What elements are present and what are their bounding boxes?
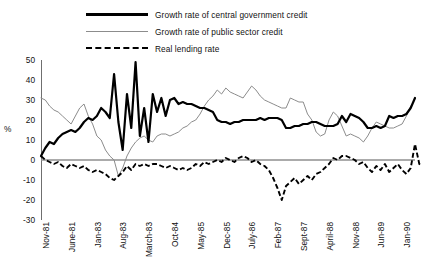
y-axis-tick-label: 50 — [11, 55, 35, 65]
legend-label: Growth rate of public sector credit — [155, 27, 283, 37]
x-axis-tick-label: May-85 — [196, 222, 206, 250]
series-canvas — [41, 60, 415, 220]
series-line-real-lending-rate — [41, 144, 421, 200]
legend-swatch-solid-thin-icon — [86, 27, 148, 37]
y-axis-tick-labels: 50403020100-10-20-30 — [9, 60, 35, 220]
x-axis-tick-label: Jan-90 — [402, 222, 412, 247]
y-axis-tick-label: -10 — [11, 175, 35, 185]
x-axis-tick-label: Oct-84 — [170, 222, 180, 247]
legend-label: Growth rate of central government credit — [155, 10, 308, 20]
y-axis-tick-label: 20 — [11, 115, 35, 125]
x-axis-tick-label: June-81 — [67, 222, 77, 252]
series-line-central-government-credit — [41, 62, 415, 156]
x-axis-tick-label: Dec-85 — [222, 222, 232, 249]
x-axis-tick-label: Sept-87 — [299, 222, 309, 251]
y-axis-tick-label: 30 — [11, 95, 35, 105]
x-axis-tick-label: Nov-81 — [41, 222, 51, 249]
x-axis-tick-labels: Nov-81June-81Jan-83Aug-83March-83Oct-84M… — [41, 222, 415, 276]
x-axis-tick-label: Aug-83 — [118, 222, 128, 249]
y-axis-tick-label: 40 — [11, 75, 35, 85]
legend-item-real-lending-rate: Real lending rate — [86, 40, 308, 57]
y-axis-tick-label: 0 — [11, 155, 35, 165]
x-axis-tick-label: Nov-88 — [351, 222, 361, 249]
legend-item-central-government-credit: Growth rate of central government credit — [86, 6, 308, 23]
y-axis-tick-label: 10 — [11, 135, 35, 145]
plot-area — [41, 60, 415, 220]
x-axis-tick-label: April-88 — [325, 222, 335, 251]
x-axis-tick-label: March-83 — [144, 222, 154, 257]
legend-item-public-sector-credit: Growth rate of public sector credit — [86, 23, 308, 40]
x-axis-tick-label: July-86 — [247, 222, 257, 249]
chart-figure: Growth rate of central government credit… — [0, 0, 421, 276]
y-axis-tick-label: -30 — [11, 215, 35, 225]
x-axis-tick-label: Feb-87 — [273, 222, 283, 248]
x-axis-tick-label: Jun-89 — [376, 222, 386, 247]
series-line-public-sector-credit — [41, 86, 411, 176]
legend-swatch-dashed-icon — [86, 44, 148, 54]
y-axis-tick-label: -20 — [11, 195, 35, 205]
chart-legend: Growth rate of central government credit… — [86, 6, 308, 57]
x-axis-tick-label: Jan-83 — [93, 222, 103, 247]
legend-swatch-solid-thick-icon — [86, 10, 148, 20]
legend-label: Real lending rate — [155, 44, 219, 54]
